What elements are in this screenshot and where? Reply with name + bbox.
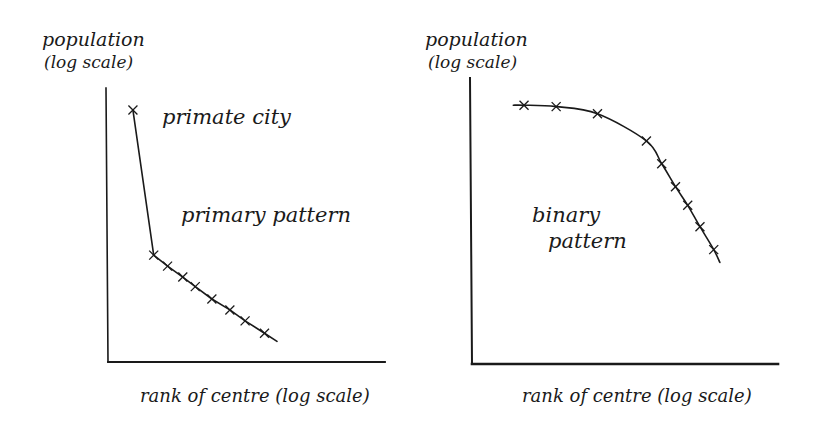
right-y-axis bbox=[470, 78, 472, 364]
annotation-primary-pattern: primary pattern bbox=[181, 203, 351, 227]
left-panel-primary-pattern: population (log scale) primate city prim… bbox=[42, 28, 385, 406]
right-panel-binary-pattern: population (log scale) binary pattern ra… bbox=[425, 28, 778, 406]
annotation-pattern: pattern bbox=[548, 229, 627, 253]
left-x-axis-label: rank of centre (log scale) bbox=[140, 385, 370, 406]
annotation-binary: binary bbox=[532, 203, 601, 227]
annotation-primate-city: primate city bbox=[162, 105, 292, 129]
right-y-axis-label-line1: population bbox=[425, 28, 528, 50]
left-y-axis-label-line1: population bbox=[42, 28, 145, 50]
left-y-axis bbox=[106, 88, 108, 362]
left-y-axis-label-line2: (log scale) bbox=[44, 52, 133, 72]
right-x-axis-label: rank of centre (log scale) bbox=[522, 385, 752, 406]
right-y-axis-label-line2: (log scale) bbox=[428, 52, 517, 72]
figure: population (log scale) primate city prim… bbox=[0, 0, 824, 432]
